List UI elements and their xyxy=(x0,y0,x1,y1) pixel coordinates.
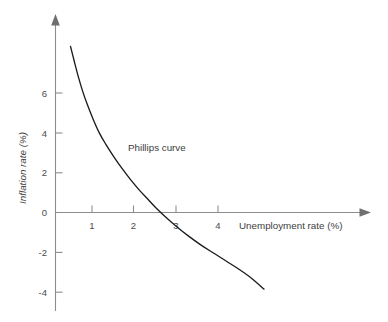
y-axis-tick-labels: 6 4 2 0 -2 -4 xyxy=(39,88,47,298)
y-tick-label-neg2: -2 xyxy=(39,247,47,258)
y-tick-label-0: 0 xyxy=(42,207,47,218)
phillips-curve-annotation: Phillips curve xyxy=(128,142,186,153)
phillips-curve-line xyxy=(71,46,264,289)
chart-canvas: 6 4 2 0 -2 -4 1 2 3 4 Unemployment rate … xyxy=(0,0,388,322)
x-tick-label-2: 2 xyxy=(131,220,136,231)
phillips-curve-chart: 6 4 2 0 -2 -4 1 2 3 4 Unemployment rate … xyxy=(0,0,388,322)
x-tick-label-4: 4 xyxy=(215,220,220,231)
x-axis-title: Unemployment rate (%) xyxy=(239,220,342,231)
x-tick-label-1: 1 xyxy=(89,220,94,231)
y-tick-label-2: 2 xyxy=(42,167,47,178)
y-tick-label-4: 4 xyxy=(42,128,47,139)
y-tick-label-neg4: -4 xyxy=(39,287,47,298)
y-axis-ticks xyxy=(56,93,63,292)
arrow-up-icon xyxy=(51,14,60,26)
y-axis-title: Inflation rate (%) xyxy=(17,132,28,204)
y-tick-label-6: 6 xyxy=(42,88,47,99)
arrow-right-icon xyxy=(360,208,372,217)
x-axis-tick-labels: 1 2 3 4 xyxy=(89,220,220,231)
